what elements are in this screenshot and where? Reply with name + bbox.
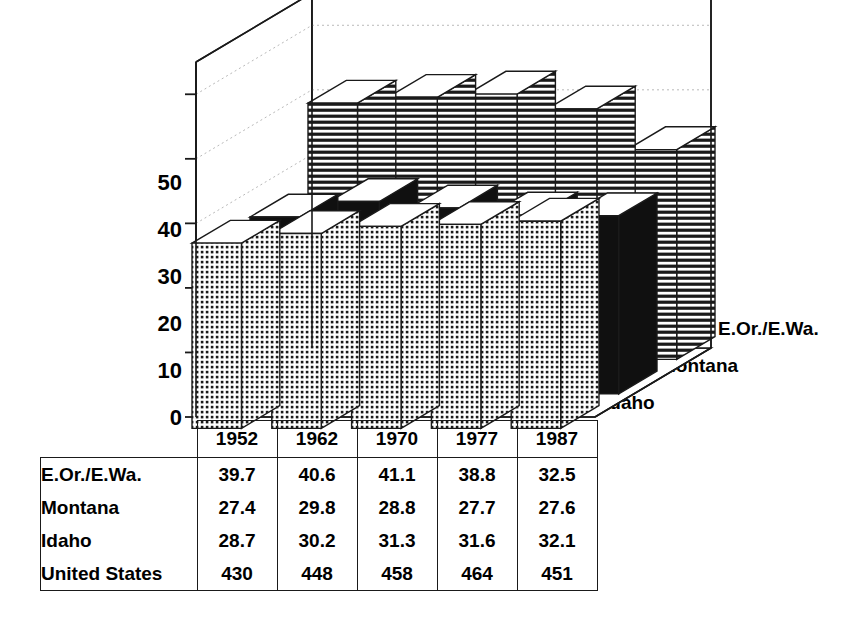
cell-e-or-e-wa-1977: 38.8 — [437, 458, 517, 492]
cell-e-or-e-wa-1970: 41.1 — [357, 458, 437, 492]
row-label-e-or-e-wa: E.Or./E.Wa. — [41, 458, 198, 492]
table-header-1962: 1962 — [277, 421, 357, 458]
table-row: United States 430 448 458 464 451 — [41, 557, 598, 591]
cell-montana-1977: 27.7 — [437, 491, 517, 524]
cell-montana-1952: 27.4 — [197, 491, 277, 524]
table-header-1970: 1970 — [357, 421, 437, 458]
row-label-united-states: United States — [41, 557, 198, 591]
cell-montana-1987: 27.6 — [517, 491, 597, 524]
cell-united-states-1987: 451 — [517, 557, 597, 591]
table-row: Montana 27.4 29.8 28.8 27.7 27.6 — [41, 491, 598, 524]
cell-idaho-1977: 31.6 — [437, 524, 517, 557]
cell-idaho-1952: 28.7 — [197, 524, 277, 557]
cell-e-or-e-wa-1962: 40.6 — [277, 458, 357, 492]
data-table: 1952 1962 1970 1977 1987 E.Or./E.Wa. 39.… — [40, 420, 598, 591]
row-label-idaho: Idaho — [41, 524, 198, 557]
table-row: Idaho 28.7 30.2 31.3 31.6 32.1 — [41, 524, 598, 557]
three-d-bar-chart — [0, 0, 849, 460]
cell-united-states-1977: 464 — [437, 557, 517, 591]
table-header-1987: 1987 — [517, 421, 597, 458]
cell-montana-1962: 29.8 — [277, 491, 357, 524]
cell-idaho-1987: 32.1 — [517, 524, 597, 557]
table-header-row: 1952 1962 1970 1977 1987 — [41, 421, 598, 458]
table-header-1977: 1977 — [437, 421, 517, 458]
cell-united-states-1970: 458 — [357, 557, 437, 591]
cell-idaho-1970: 31.3 — [357, 524, 437, 557]
cell-e-or-e-wa-1952: 39.7 — [197, 458, 277, 492]
cell-united-states-1952: 430 — [197, 557, 277, 591]
cell-united-states-1962: 448 — [277, 557, 357, 591]
row-label-montana: Montana — [41, 491, 198, 524]
table-header-1952: 1952 — [197, 421, 277, 458]
cell-e-or-e-wa-1987: 32.5 — [517, 458, 597, 492]
cell-idaho-1962: 30.2 — [277, 524, 357, 557]
table-header-blank — [41, 421, 198, 458]
chart-page: Billion cubic feet 50 40 30 20 10 0 E.Or… — [0, 0, 849, 629]
table-row: E.Or./E.Wa. 39.7 40.6 41.1 38.8 32.5 — [41, 458, 598, 492]
cell-montana-1970: 28.8 — [357, 491, 437, 524]
